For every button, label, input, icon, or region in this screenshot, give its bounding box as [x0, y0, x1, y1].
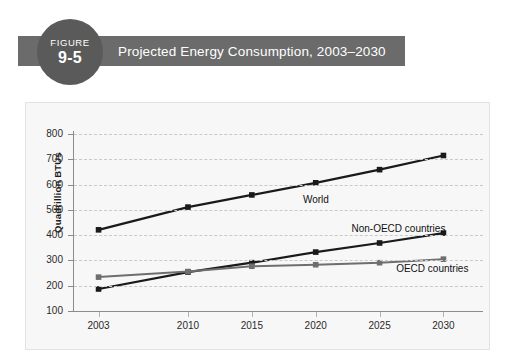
x-tick-mark: [99, 312, 100, 317]
y-gridline: [74, 210, 483, 211]
y-gridline: [74, 159, 483, 160]
y-tick-label: 500: [29, 205, 63, 215]
series-label: World: [303, 195, 329, 205]
y-gridline: [74, 185, 483, 186]
y-tick-label: 700: [29, 154, 63, 164]
data-point-marker: [96, 274, 102, 280]
y-tick-label: 800: [29, 129, 63, 139]
x-tick-label: 2030: [421, 321, 465, 331]
series-line: [99, 155, 444, 229]
figure-badge-word: FIGURE: [50, 38, 90, 48]
figure-number-badge: FIGURE 9-5: [37, 19, 103, 85]
figure-badge-number: 9-5: [58, 50, 82, 66]
data-point-marker: [185, 269, 191, 275]
x-tick-mark: [380, 312, 381, 317]
y-gridline: [74, 235, 483, 236]
y-tick-mark: [68, 235, 73, 236]
data-point-marker: [96, 286, 102, 292]
figure-header: FIGURE 9-5 Projected Energy Consumption,…: [0, 0, 517, 92]
figure-title: Projected Energy Consumption, 2003–2030: [118, 36, 386, 66]
x-tick-label: 2010: [166, 321, 210, 331]
y-tick-mark: [68, 185, 73, 186]
y-tick-label: 400: [29, 230, 63, 240]
y-tick-mark: [68, 134, 73, 135]
y-gridline: [74, 134, 483, 135]
data-point-marker: [249, 192, 255, 198]
y-tick-mark: [68, 210, 73, 211]
data-point-marker: [441, 153, 447, 159]
y-tick-label: 600: [29, 180, 63, 190]
y-tick-label: 200: [29, 281, 63, 291]
y-tick-mark: [68, 159, 73, 160]
x-tick-label: 2003: [77, 321, 121, 331]
y-tick-mark: [68, 260, 73, 261]
data-point-marker: [313, 249, 319, 255]
x-tick-label: 2020: [294, 321, 338, 331]
series-label: Non-OECD countries: [351, 224, 445, 234]
data-point-marker: [377, 167, 383, 173]
x-tick-label: 2025: [358, 321, 402, 331]
data-point-marker: [96, 227, 102, 233]
y-gridline: [74, 260, 483, 261]
x-tick-label: 2015: [230, 321, 274, 331]
y-tick-mark: [68, 286, 73, 287]
x-tick-mark: [252, 312, 253, 317]
x-tick-mark: [316, 312, 317, 317]
x-tick-mark: [443, 312, 444, 317]
data-point-marker: [313, 262, 319, 268]
series-label: OECD countries: [396, 264, 468, 274]
data-point-marker: [377, 240, 383, 246]
y-tick-label: 300: [29, 255, 63, 265]
y-tick-label: 100: [29, 306, 63, 316]
y-tick-mark: [68, 311, 73, 312]
chart-panel: Quadrillion BTUs 10020030040050060070080…: [25, 102, 490, 350]
plot-area: Quadrillion BTUs 10020030040050060070080…: [26, 103, 491, 351]
x-tick-mark: [188, 312, 189, 317]
series-line: [99, 259, 444, 277]
y-gridline: [74, 286, 483, 287]
data-point-marker: [249, 263, 255, 269]
